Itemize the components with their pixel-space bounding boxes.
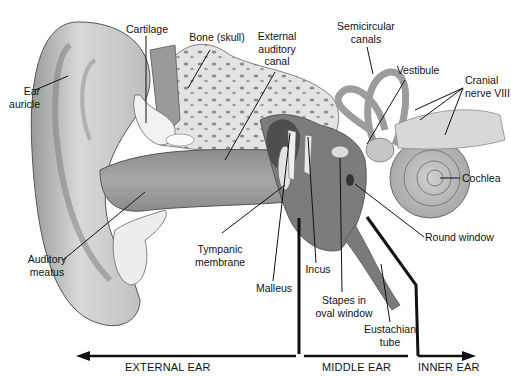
label-bone-skull: Bone (skull): [186, 31, 248, 44]
semicircular-canals-shape: [338, 72, 406, 145]
arrow-left-icon: [76, 351, 90, 361]
label-line: auricle: [6, 98, 40, 111]
label-auditory-meatus: Auditory meatus: [22, 253, 72, 278]
vestibule-shape: [366, 138, 394, 162]
label-line: Eustachian: [360, 323, 420, 336]
region-inner-ear: INNER EAR: [418, 361, 480, 373]
label-line: meatus: [22, 266, 72, 279]
ear-anatomy-diagram: Ear auricle Cartilage Bone (skull) Exter…: [0, 0, 511, 376]
cranial-nerve-shape: [395, 110, 505, 149]
label-external-auditory-canal: External auditory canal: [255, 30, 299, 68]
arrow-right-icon: [462, 351, 476, 361]
label-stapes: Stapes in oval window: [312, 294, 376, 319]
label-line: canal: [255, 55, 299, 68]
label-line: nerve VIII: [465, 87, 511, 100]
label-cranial-nerve: Cranial nerve VIII: [465, 74, 511, 99]
label-line: Ear: [6, 85, 40, 98]
label-cochlea: Cochlea: [462, 172, 508, 185]
label-eustachian-tube: Eustachian tube: [360, 323, 420, 348]
region-middle-ear: MIDDLE EAR: [322, 361, 391, 373]
label-line: Tympanic: [190, 243, 250, 256]
label-line: External: [255, 30, 299, 43]
label-malleus: Malleus: [252, 282, 296, 295]
label-tympanic-membrane: Tympanic membrane: [190, 243, 250, 268]
label-line: membrane: [190, 256, 250, 269]
label-line: tube: [360, 336, 420, 349]
region-external-ear: EXTERNAL EAR: [125, 361, 211, 373]
label-semicircular-canals: Semicircular canals: [335, 20, 397, 45]
label-cartilage: Cartilage: [122, 23, 172, 36]
label-line: auditory: [255, 43, 299, 56]
label-line: Auditory: [22, 253, 72, 266]
label-line: Stapes in: [312, 294, 376, 307]
label-round-window: Round window: [425, 231, 505, 244]
round-window-shape: [346, 174, 354, 186]
label-ear-auricle: Ear auricle: [6, 85, 40, 110]
label-line: Cranial: [465, 74, 511, 87]
label-line: Semicircular: [335, 20, 397, 33]
label-vestibule: Vestibule: [396, 64, 440, 77]
label-incus: Incus: [302, 263, 334, 276]
stapes-shape: [331, 146, 349, 158]
label-line: canals: [335, 33, 397, 46]
label-line: oval window: [312, 307, 376, 320]
